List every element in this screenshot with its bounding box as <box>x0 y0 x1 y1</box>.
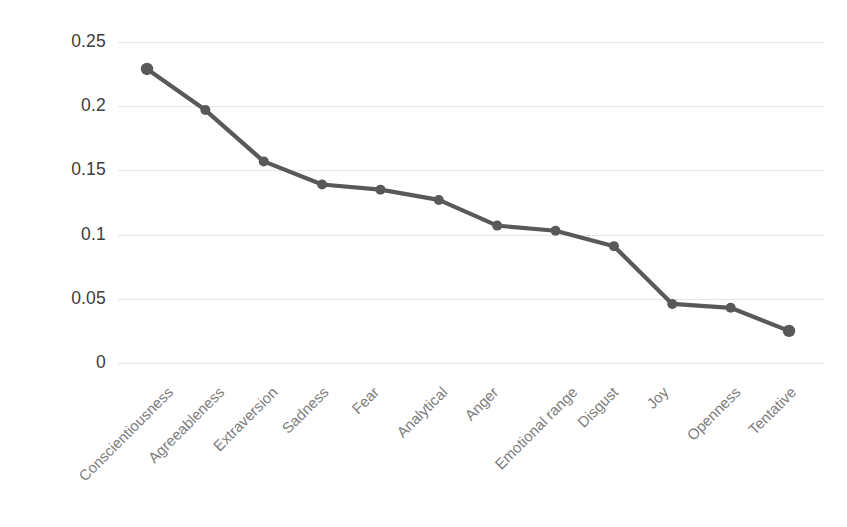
x-tick-label: Fear <box>349 384 381 416</box>
x-tick-label: Analytical <box>394 384 450 440</box>
x-tick-label: Openness <box>684 384 743 443</box>
x-tick-label: Tentative <box>746 384 799 437</box>
x-tick-label: Anger <box>462 384 501 423</box>
x-tick-label: Disgust <box>575 384 621 430</box>
x-axis-tick-labels: ConscientiousnessAgreeablenessExtraversi… <box>0 0 847 527</box>
x-tick-label: Sadness <box>279 384 331 436</box>
x-tick-label: Conscientiousness <box>76 384 176 484</box>
chart-page: 0.25 0.2 0.15 0.1 0.05 0 Conscientiousne… <box>0 0 847 527</box>
x-tick-label: Emotional range <box>492 384 580 472</box>
x-tick-label: Joy <box>644 384 671 411</box>
